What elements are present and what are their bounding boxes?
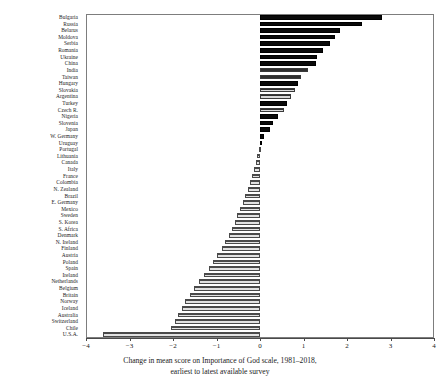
bar bbox=[260, 28, 340, 33]
x-axis-tick bbox=[347, 338, 348, 341]
bar bbox=[260, 35, 335, 40]
bar bbox=[252, 174, 260, 179]
bar-row bbox=[86, 47, 434, 54]
y-axis-label: U.S.A. bbox=[63, 331, 78, 338]
x-axis-tick-label: 0 bbox=[258, 342, 262, 351]
bar-row bbox=[86, 285, 434, 292]
bar-row bbox=[86, 239, 434, 246]
bar bbox=[232, 227, 260, 232]
x-axis-tick-label: 2 bbox=[345, 342, 349, 351]
bar bbox=[260, 134, 264, 139]
bar-row bbox=[86, 305, 434, 312]
caption-line-1: Change in mean score on Importance of Go… bbox=[0, 355, 440, 366]
bar-row bbox=[86, 14, 434, 21]
bar bbox=[259, 147, 261, 152]
bar bbox=[235, 220, 260, 225]
x-axis-tick-label: −3 bbox=[126, 342, 133, 351]
bar bbox=[260, 48, 323, 53]
bar-row bbox=[86, 87, 434, 94]
bar-row bbox=[86, 278, 434, 285]
bar bbox=[260, 141, 262, 146]
bar bbox=[103, 332, 260, 337]
bar bbox=[260, 121, 273, 126]
bar bbox=[185, 299, 260, 304]
bar-row bbox=[86, 80, 434, 87]
bar bbox=[250, 180, 260, 185]
x-axis-tick bbox=[391, 338, 392, 341]
bar-row bbox=[86, 126, 434, 133]
chart-figure: BulgariaRussiaBelarusMoldovaSerbiaRomani… bbox=[0, 0, 440, 392]
bar-row bbox=[86, 54, 434, 61]
bar-row bbox=[86, 312, 434, 319]
bar-row bbox=[86, 27, 434, 34]
bar bbox=[256, 160, 260, 165]
bar-row bbox=[86, 159, 434, 166]
bar bbox=[260, 127, 270, 132]
y-axis-category-labels: BulgariaRussiaBelarusMoldovaSerbiaRomani… bbox=[0, 14, 82, 338]
bar bbox=[260, 81, 298, 86]
bar-row bbox=[86, 166, 434, 173]
x-axis-tick bbox=[86, 338, 87, 341]
bar bbox=[260, 61, 316, 66]
bar bbox=[245, 194, 260, 199]
x-axis-tick bbox=[304, 338, 305, 341]
x-axis-tick-label: −1 bbox=[213, 342, 220, 351]
bar-row bbox=[86, 226, 434, 233]
bar-row bbox=[86, 331, 434, 338]
bar-row bbox=[86, 259, 434, 266]
bar bbox=[175, 319, 260, 324]
bars-layer bbox=[86, 14, 434, 338]
bar bbox=[248, 187, 260, 192]
bar bbox=[222, 246, 260, 251]
bar bbox=[194, 286, 260, 291]
bar-row bbox=[86, 265, 434, 272]
bar bbox=[204, 273, 260, 278]
bar-row bbox=[86, 107, 434, 114]
bar-row bbox=[86, 40, 434, 47]
bar-row bbox=[86, 100, 434, 107]
bar-row bbox=[86, 219, 434, 226]
bar bbox=[260, 114, 278, 119]
bar bbox=[260, 88, 295, 93]
bar bbox=[260, 101, 287, 106]
x-axis-tick-label: 3 bbox=[389, 342, 393, 351]
bar bbox=[229, 233, 260, 238]
bar bbox=[260, 41, 330, 46]
bar bbox=[178, 313, 260, 318]
bar bbox=[237, 213, 260, 218]
bar bbox=[260, 108, 284, 113]
bar bbox=[254, 167, 260, 172]
bar-row bbox=[86, 153, 434, 160]
bar-row bbox=[86, 113, 434, 120]
bar-row bbox=[86, 34, 434, 41]
bar-row bbox=[86, 146, 434, 153]
bar bbox=[260, 15, 382, 20]
x-axis-tick-label: 1 bbox=[302, 342, 306, 351]
bar-row bbox=[86, 318, 434, 325]
bar-row bbox=[86, 120, 434, 127]
x-axis-tick-label: −4 bbox=[82, 342, 89, 351]
bar-row bbox=[86, 179, 434, 186]
bar bbox=[260, 55, 317, 60]
bar bbox=[260, 94, 291, 99]
bar bbox=[171, 326, 260, 331]
bar-row bbox=[86, 232, 434, 239]
bar bbox=[257, 154, 260, 159]
bar-row bbox=[86, 140, 434, 147]
x-axis-tick bbox=[217, 338, 218, 341]
bar bbox=[182, 306, 260, 311]
bar-row bbox=[86, 60, 434, 67]
bar-row bbox=[86, 67, 434, 74]
bar-row bbox=[86, 199, 434, 206]
x-axis-tick-label: −2 bbox=[169, 342, 176, 351]
bar bbox=[209, 266, 260, 271]
bar bbox=[260, 75, 301, 80]
bar-row bbox=[86, 193, 434, 200]
x-axis-tick bbox=[260, 338, 261, 341]
chart-caption: Change in mean score on Importance of Go… bbox=[0, 355, 440, 377]
bar-row bbox=[86, 252, 434, 259]
bar-row bbox=[86, 206, 434, 213]
bar bbox=[260, 22, 362, 27]
bar-row bbox=[86, 325, 434, 332]
bar-row bbox=[86, 186, 434, 193]
